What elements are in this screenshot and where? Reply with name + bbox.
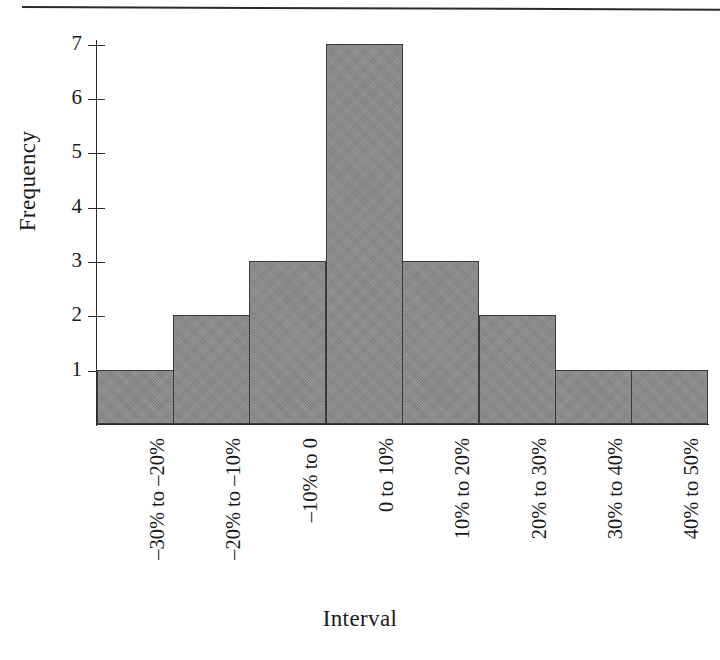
y-tick-label-4: 4 [52,196,82,217]
x-axis-title: Interval [0,606,720,632]
bar-0 [97,370,174,424]
x-label-0: –30% to –20% [146,438,168,598]
y-tick-5 [88,153,105,154]
y-tick-3 [88,262,105,263]
bar-4 [402,261,479,424]
bar-6 [555,370,632,424]
bar-7 [631,370,708,424]
y-tick-label-7: 7 [52,33,82,54]
y-tick-label-2-wrap: 2 [52,304,82,326]
x-label-4: 10% to 20% [451,438,473,598]
y-axis-title: Frequency [15,91,41,271]
y-tick-label-3: 3 [52,250,82,271]
y-tick-label-1: 1 [52,359,82,380]
y-tick-label-3-wrap: 3 [52,250,82,272]
bar-1 [173,315,250,424]
y-tick-2 [88,316,105,317]
y-tick-label-1-wrap: 1 [52,359,82,381]
histogram-chart: 7 6 5 4 3 2 1 –30% to –20% –20% to –10% … [0,0,720,660]
x-label-7: 40% to 50% [680,438,702,598]
y-tick-label-4-wrap: 4 [52,196,82,218]
x-label-3: 0 to 10% [375,438,397,598]
y-tick-label-2: 2 [52,304,82,325]
x-axis-line [96,424,709,425]
x-label-6: 30% to 40% [604,438,626,598]
x-label-2: –10% to 0 [299,438,321,598]
y-tick-label-5: 5 [52,141,82,162]
y-tick-4 [88,208,105,209]
y-tick-label-6: 6 [52,87,82,108]
y-tick-6 [88,99,105,100]
y-tick-7 [88,45,105,46]
y-axis-line [96,40,97,426]
y-tick-label-5-wrap: 5 [52,141,82,163]
y-tick-label-7-wrap: 7 [52,33,82,55]
x-label-5: 20% to 30% [528,438,550,598]
x-label-1: –20% to –10% [222,438,244,598]
bar-3 [326,44,403,424]
bar-2 [249,261,326,424]
bar-5 [479,315,556,424]
y-tick-label-6-wrap: 6 [52,87,82,109]
